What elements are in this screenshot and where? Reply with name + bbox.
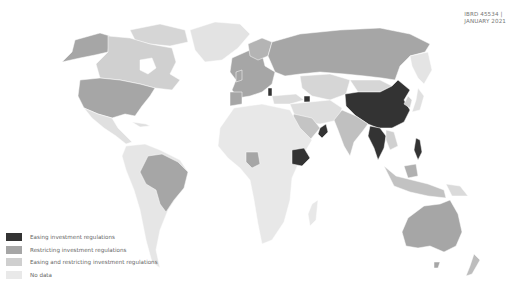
region-ethiopia (292, 148, 310, 166)
region-caribbean (132, 122, 150, 127)
region-madagascar (308, 200, 318, 226)
region-azerbaijan (304, 96, 310, 102)
region-oman (318, 124, 328, 138)
reference-date: JANUARY 2021 (464, 18, 506, 25)
region-uk (236, 70, 242, 82)
legend-swatch-easing-and-restricting (6, 258, 22, 266)
region-tasmania (434, 262, 440, 268)
region-new-zealand (466, 254, 480, 276)
region-japan (412, 88, 424, 112)
legend-label: Easing investment regulations (30, 234, 115, 240)
legend-swatch-no-data (6, 271, 22, 279)
region-iberia (230, 92, 242, 106)
region-borneo (404, 164, 418, 178)
map-reference: IBRD 45534 | JANUARY 2021 (464, 11, 506, 25)
region-russia-far-east (410, 52, 432, 84)
reference-code: IBRD 45534 | (464, 11, 506, 18)
legend-swatch-restricting (6, 246, 22, 254)
map-legend: Easing investment regulations Restrictin… (6, 231, 158, 281)
region-papua (446, 184, 468, 196)
legend-item-easing-and-restricting: Easing and restricting investment regula… (6, 256, 158, 269)
region-australia (402, 200, 462, 252)
legend-item-no-data: No data (6, 269, 158, 282)
legend-label: Easing and restricting investment regula… (30, 259, 158, 265)
region-russia (268, 28, 430, 80)
region-vietnam (386, 130, 398, 150)
region-myanmar-thailand (368, 126, 386, 160)
region-africa (218, 104, 312, 244)
legend-label: No data (30, 272, 52, 278)
region-serbia (268, 88, 272, 96)
region-turkey (272, 94, 304, 104)
region-philippines (414, 138, 422, 160)
legend-label: Restricting investment regulations (30, 247, 126, 253)
legend-swatch-easing (6, 233, 22, 241)
legend-item-restricting: Restricting investment regulations (6, 244, 158, 257)
legend-item-easing: Easing investment regulations (6, 231, 158, 244)
